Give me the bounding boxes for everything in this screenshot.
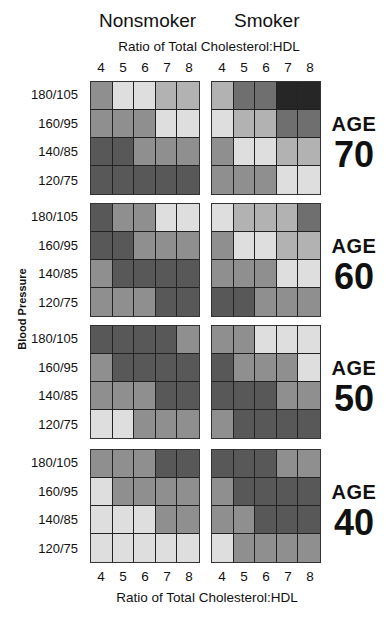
heatmap-cell (156, 110, 178, 138)
heatmap-cell (91, 326, 113, 354)
heatmap-cell (277, 232, 299, 260)
heatmap-cell (234, 260, 256, 288)
heatmap-cell (113, 288, 135, 316)
heatmap-cell (277, 110, 299, 138)
x-tick-bottom-left: 6 (134, 569, 156, 584)
heatmap-cell (113, 326, 135, 354)
heatmap-cell (277, 204, 299, 232)
smoker-header: Smoker (234, 10, 299, 32)
x-tick-top-left: 5 (112, 60, 134, 75)
heatmap-cell (234, 288, 256, 316)
heatmap-cell (156, 382, 178, 410)
heatmap-cell (113, 478, 135, 506)
age-label-word: AGE (324, 357, 384, 380)
heatmap-cell (177, 382, 199, 410)
heatmap-cell (91, 506, 113, 534)
heatmap-cell (255, 354, 277, 382)
x-tick-top-left: 7 (156, 60, 178, 75)
heatmap-cell (91, 138, 113, 166)
heatmap-cell (91, 82, 113, 110)
heatmap-cell (177, 110, 199, 138)
heatmap-cell (298, 82, 320, 110)
heatmap-cell (255, 478, 277, 506)
y-tick-label: 160/95 (4, 484, 78, 499)
heatmap-cell (156, 326, 178, 354)
heatmap-cell (156, 534, 178, 562)
heatmap-cell (277, 260, 299, 288)
heatmap-cell (177, 166, 199, 194)
heatmap-cell (113, 110, 135, 138)
heatmap-cell (212, 110, 234, 138)
heatmap-cell (234, 410, 256, 438)
heatmap-cell (277, 450, 299, 478)
x-tick-bottom-left: 4 (90, 569, 112, 584)
heatmap-cell (255, 382, 277, 410)
heatmap-cell (255, 204, 277, 232)
heatmap-cell (255, 110, 277, 138)
heatmap-cell (298, 534, 320, 562)
heatmap-cell (156, 232, 178, 260)
heatmap-cell (212, 450, 234, 478)
heatmap-cell (177, 260, 199, 288)
heatmap-cell (134, 110, 156, 138)
heatmap-cell (156, 354, 178, 382)
nonsmoker-header: Nonsmoker (99, 10, 196, 32)
x-tick-bottom-left: 7 (156, 569, 178, 584)
heatmap-cell (212, 166, 234, 194)
heatmap-cell (298, 354, 320, 382)
heatmap-cell (134, 410, 156, 438)
heatmap-cell (298, 204, 320, 232)
heatmap-cell (156, 82, 178, 110)
heatmap-cell (134, 354, 156, 382)
y-tick-label: 120/75 (4, 173, 78, 188)
heatmap-cell (234, 478, 256, 506)
heatmap-cell (277, 410, 299, 438)
y-tick-label: 120/75 (4, 417, 78, 432)
heatmap-cell (113, 382, 135, 410)
heatmap-cell (113, 260, 135, 288)
x-tick-top-right: 7 (277, 60, 299, 75)
heatmap-cell (91, 534, 113, 562)
heatmap-grid-smoker-age-50 (211, 325, 321, 439)
heatmap-cell (113, 204, 135, 232)
heatmap-cell (177, 326, 199, 354)
heatmap-cell (91, 288, 113, 316)
heatmap-cell (91, 204, 113, 232)
heatmap-grid-nonsmoker-age-50 (90, 325, 200, 439)
heatmap-cell (91, 232, 113, 260)
heatmap-cell (277, 166, 299, 194)
heatmap-cell (134, 138, 156, 166)
heatmap-cell (156, 288, 178, 316)
heatmap-cell (255, 410, 277, 438)
heatmap-cell (212, 354, 234, 382)
heatmap-cell (212, 506, 234, 534)
heatmap-cell (255, 232, 277, 260)
heatmap-cell (177, 82, 199, 110)
y-tick-label: 140/85 (4, 144, 78, 159)
heatmap-cell (113, 166, 135, 194)
heatmap-cell (113, 82, 135, 110)
heatmap-cell (91, 354, 113, 382)
heatmap-cell (298, 410, 320, 438)
heatmap-cell (91, 450, 113, 478)
heatmap-cell (298, 326, 320, 354)
heatmap-cell (255, 166, 277, 194)
x-tick-bottom-right: 7 (277, 569, 299, 584)
y-tick-label: 160/95 (4, 116, 78, 131)
heatmap-cell (177, 354, 199, 382)
heatmap-cell (156, 506, 178, 534)
heatmap-cell (177, 288, 199, 316)
age-label-value: 50 (324, 378, 384, 420)
heatmap-cell (255, 260, 277, 288)
heatmap-cell (134, 382, 156, 410)
heatmap-grid-nonsmoker-age-60 (90, 203, 200, 317)
heatmap-cell (234, 450, 256, 478)
heatmap-cell (298, 260, 320, 288)
heatmap-cell (134, 506, 156, 534)
x-tick-bottom-left: 5 (112, 569, 134, 584)
heatmap-cell (234, 506, 256, 534)
heatmap-cell (234, 382, 256, 410)
heatmap-cell (177, 138, 199, 166)
heatmap-cell (134, 204, 156, 232)
heatmap-cell (177, 204, 199, 232)
